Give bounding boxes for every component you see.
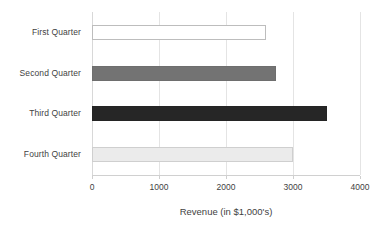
bar-row	[92, 25, 360, 40]
x-axis-title: Revenue (in $1,000's)	[92, 205, 360, 218]
x-axis-tick	[226, 176, 227, 179]
x-axis-tick-label: 3000	[284, 181, 303, 193]
x-axis-tick-label: 2000	[217, 181, 236, 193]
bar-third-quarter[interactable]	[92, 106, 327, 121]
x-axis-tick-label: 0	[90, 181, 95, 193]
x-axis-tick-labels: 01000200030004000	[92, 181, 360, 195]
category-label: First Quarter	[32, 27, 81, 38]
x-axis-tick	[159, 176, 160, 179]
bar-row	[92, 106, 360, 121]
bar-second-quarter[interactable]	[92, 66, 276, 81]
x-axis-tick	[293, 176, 294, 179]
bar-row	[92, 66, 360, 81]
category-label: Fourth Quarter	[24, 149, 81, 160]
x-axis-ticks	[92, 176, 360, 180]
category-label: Third Quarter	[29, 108, 81, 119]
x-axis-tick	[360, 176, 361, 179]
bar-chart: First Quarter Second Quarter Third Quart…	[0, 0, 391, 232]
category-axis-labels: First Quarter Second Quarter Third Quart…	[0, 12, 88, 175]
plot-area	[92, 12, 360, 175]
category-label: Second Quarter	[20, 68, 81, 79]
x-axis-tick	[92, 176, 93, 179]
bar-series	[92, 12, 360, 175]
bar-first-quarter[interactable]	[92, 25, 266, 40]
x-axis-tick-label: 4000	[351, 181, 370, 193]
x-axis-tick-label: 1000	[150, 181, 169, 193]
bar-row	[92, 147, 360, 162]
gridline	[360, 12, 361, 175]
bar-fourth-quarter[interactable]	[92, 147, 293, 162]
